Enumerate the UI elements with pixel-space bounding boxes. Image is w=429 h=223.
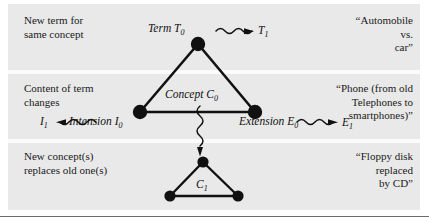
label-concept-c1-text: C: [196, 178, 204, 190]
label-extension-e1: E1: [342, 116, 353, 131]
label-intension-i0-text: Intension I: [69, 115, 119, 127]
node-c1-left: [164, 190, 175, 201]
label-extension-e0-text: Extension E: [239, 115, 294, 127]
label-term-t0-text: Term T: [148, 22, 181, 34]
label-concept-c1-subscript: 1: [204, 184, 208, 193]
concept-replacement-arrow: [197, 106, 203, 157]
label-extension-e1-text: E: [342, 116, 349, 128]
label-concept-c0: Concept C0: [165, 88, 218, 103]
label-extension-e0: Extension E0: [239, 115, 298, 130]
label-term-t1: T1: [258, 24, 268, 39]
node-c1-right: [232, 190, 243, 201]
figure-container: New term for same concept Content of ter…: [0, 0, 429, 223]
label-term-t1-subscript: 1: [264, 30, 268, 39]
label-intension-i0: Intension I0: [69, 115, 123, 130]
label-extension-e0-subscript: 0: [294, 121, 298, 130]
lower-triangle-edge-right: [203, 162, 238, 196]
bottom-rule: [0, 216, 429, 217]
node-c1-apex: [197, 156, 208, 167]
node-term-t0: [191, 37, 205, 51]
node-intension-i0: [133, 105, 147, 119]
extension-change-arrow: [297, 119, 338, 125]
semiotic-triangle-drawing: [0, 0, 429, 223]
label-concept-c0-text: Concept C: [165, 88, 214, 100]
label-intension-i0-subscript: 0: [119, 121, 123, 130]
upper-triangle: [133, 37, 262, 119]
label-intension-i1-subscript: 1: [44, 121, 48, 130]
label-extension-e1-subscript: 1: [349, 122, 353, 131]
label-concept-c0-subscript: 0: [214, 94, 218, 103]
label-term-t0-subscript: 0: [181, 28, 185, 37]
term-change-arrow: [216, 28, 254, 34]
label-intension-i1: I1: [40, 115, 48, 130]
label-concept-c1: C1: [196, 178, 208, 193]
label-term-t0: Term T0: [148, 22, 185, 37]
